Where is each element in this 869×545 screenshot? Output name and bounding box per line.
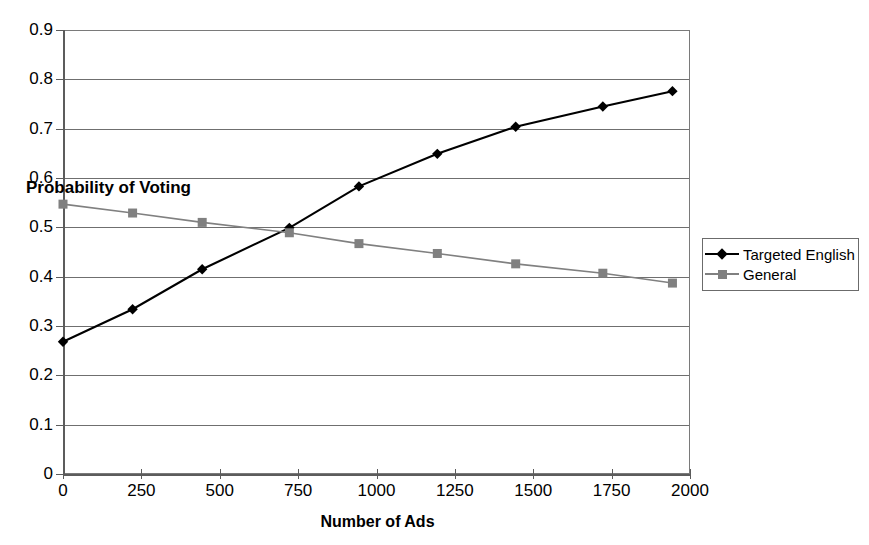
x-axis-tick-label: 750 [263, 481, 333, 501]
y-axis-tick-label: 0.9 [5, 21, 53, 38]
x-axis-tick-label: 0 [28, 481, 98, 501]
gridline-horizontal [64, 425, 689, 426]
y-axis-tick-label: 0.4 [5, 268, 53, 285]
x-axis-tick [612, 469, 613, 479]
y-axis-tick [56, 79, 64, 80]
gridline-horizontal [64, 79, 689, 80]
x-axis-tick-label: 1250 [420, 481, 490, 501]
gridline-horizontal [64, 326, 689, 327]
x-axis-tick [690, 469, 691, 479]
x-axis-tick [220, 469, 221, 479]
legend-diamond-marker-icon [705, 247, 739, 261]
gridline-horizontal [64, 227, 689, 228]
x-axis-tick [141, 469, 142, 479]
legend-label: General [739, 266, 796, 283]
x-axis-tick-label: 1500 [498, 481, 568, 501]
gridline-horizontal [64, 375, 689, 376]
x-axis-tick-label: 250 [106, 481, 176, 501]
y-axis-tick-label: 0.5 [5, 218, 53, 235]
y-axis-tick-label: 0.7 [5, 120, 53, 137]
x-axis-tick [533, 469, 534, 479]
y-axis-tick [56, 326, 64, 327]
legend-item-general[interactable]: General [703, 264, 858, 284]
y-axis-title: Probability of Voting [26, 178, 191, 198]
x-axis-tick-label: 500 [185, 481, 255, 501]
x-axis-tick-label: 1000 [342, 481, 412, 501]
y-axis-tick-label: 0.1 [5, 416, 53, 433]
x-axis-tick-label: 2000 [655, 481, 725, 501]
legend-item-targeted-english[interactable]: Targeted English [703, 244, 858, 264]
y-axis-tick-label: 0.3 [5, 317, 53, 334]
y-axis-tick [56, 227, 64, 228]
y-axis-tick-label: 0.8 [5, 70, 53, 87]
legend-square-marker-icon [705, 267, 739, 281]
gridline-horizontal [64, 277, 689, 278]
y-axis-tick-label: 0.2 [5, 366, 53, 383]
y-axis-tick [56, 30, 64, 31]
legend-label: Targeted English [739, 246, 855, 263]
y-axis-line [63, 30, 65, 475]
x-axis-title: Number of Ads [0, 513, 755, 531]
y-axis-tick [56, 425, 64, 426]
plot-area [63, 30, 690, 474]
y-axis-tick [56, 129, 64, 130]
gridline-horizontal [64, 129, 689, 130]
x-axis-tick [455, 469, 456, 479]
y-axis-tick-label: 0 [5, 465, 53, 482]
chart-container: 00.10.20.30.40.50.60.70.80.9 02505007501… [0, 0, 869, 545]
x-axis-tick [63, 469, 64, 479]
x-axis-tick [377, 469, 378, 479]
x-axis-tick-label: 1750 [577, 481, 647, 501]
x-axis-tick [298, 469, 299, 479]
y-axis-tick [56, 375, 64, 376]
legend: Targeted English General [702, 238, 859, 291]
y-axis-tick [56, 277, 64, 278]
